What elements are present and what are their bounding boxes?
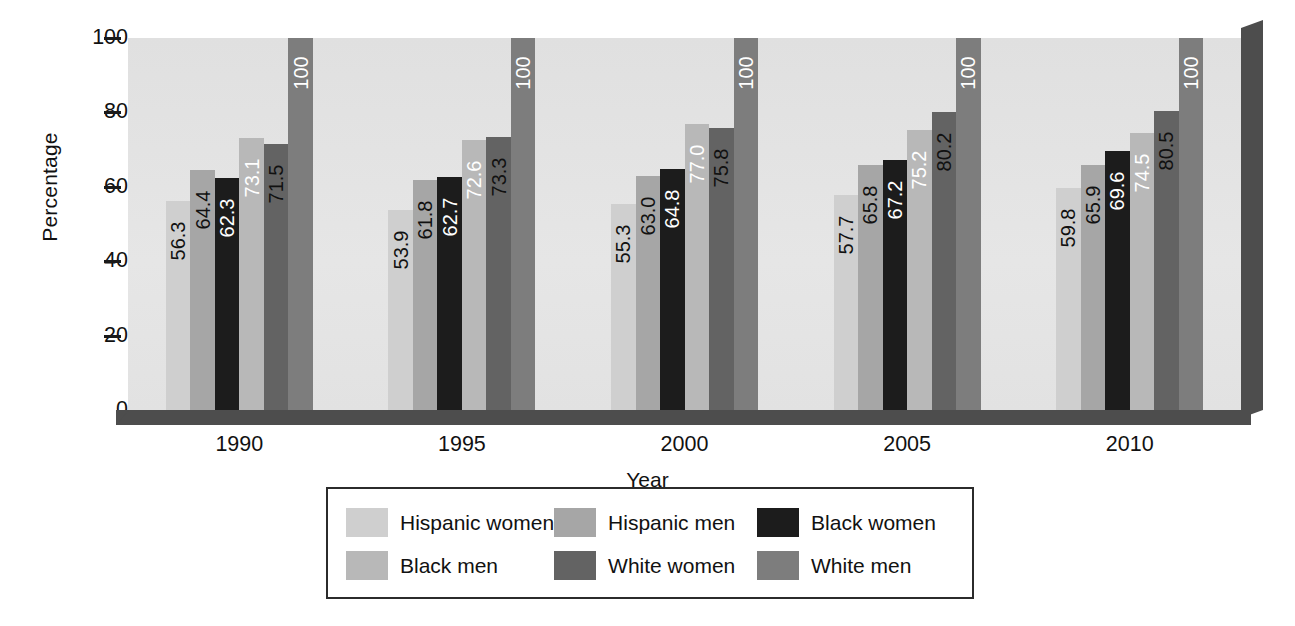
legend-item[interactable]: Black men bbox=[346, 551, 554, 580]
bar-value-label: 61.8 bbox=[415, 201, 435, 240]
bar-value-label: 53.9 bbox=[391, 230, 411, 269]
bar[interactable]: 75.2 bbox=[907, 130, 932, 410]
legend-item[interactable]: Black women bbox=[757, 508, 960, 537]
plot-depth-right-wall bbox=[1241, 20, 1263, 418]
bar[interactable]: 73.3 bbox=[486, 137, 511, 410]
bar[interactable]: 77.0 bbox=[685, 124, 710, 410]
bar-column[interactable]: 72.6 bbox=[462, 38, 487, 410]
bar[interactable]: 63.0 bbox=[636, 176, 661, 410]
bar[interactable]: 64.8 bbox=[660, 169, 685, 410]
legend-item-label: Hispanic women bbox=[400, 511, 554, 535]
bar-column[interactable]: 59.8 bbox=[1056, 38, 1081, 410]
bar[interactable]: 59.8 bbox=[1056, 188, 1081, 410]
bar[interactable]: 100 bbox=[288, 38, 313, 410]
bar-column[interactable]: 73.1 bbox=[239, 38, 264, 410]
bar[interactable]: 69.6 bbox=[1105, 151, 1130, 410]
bar-column[interactable]: 61.8 bbox=[413, 38, 438, 410]
bar-column[interactable]: 100 bbox=[288, 38, 313, 410]
bar-value-label: 100 bbox=[291, 56, 311, 89]
bar[interactable]: 62.3 bbox=[215, 178, 240, 410]
bar-column[interactable]: 62.7 bbox=[437, 38, 462, 410]
y-axis-tick-label: 0 bbox=[33, 399, 128, 421]
bar-group: 55.363.064.877.075.8100 bbox=[611, 38, 758, 410]
bar-column[interactable]: 100 bbox=[734, 38, 759, 410]
bar-column[interactable]: 56.3 bbox=[166, 38, 191, 410]
legend-swatch-icon bbox=[757, 508, 799, 537]
legend-item[interactable]: White women bbox=[554, 551, 757, 580]
bar-column[interactable]: 74.5 bbox=[1130, 38, 1155, 410]
plot-floor bbox=[116, 410, 1251, 425]
bar-column[interactable]: 75.8 bbox=[709, 38, 734, 410]
bar-column[interactable]: 62.3 bbox=[215, 38, 240, 410]
x-axis-tick-label: 2005 bbox=[847, 432, 967, 457]
bar-value-label: 59.8 bbox=[1058, 208, 1078, 247]
bar-value-label: 71.5 bbox=[266, 165, 286, 204]
bar-column[interactable]: 64.4 bbox=[190, 38, 215, 410]
bar[interactable]: 62.7 bbox=[437, 177, 462, 410]
bar[interactable]: 65.9 bbox=[1081, 165, 1106, 410]
bar[interactable]: 100 bbox=[734, 38, 759, 410]
bar-column[interactable]: 53.9 bbox=[388, 38, 413, 410]
bar-value-label: 100 bbox=[513, 56, 533, 89]
bar-column[interactable]: 80.5 bbox=[1154, 38, 1179, 410]
x-axis-tick-label: 2000 bbox=[625, 432, 745, 457]
bar-column[interactable]: 77.0 bbox=[685, 38, 710, 410]
bar[interactable]: 53.9 bbox=[388, 210, 413, 411]
bar[interactable]: 100 bbox=[956, 38, 981, 410]
bar[interactable]: 80.2 bbox=[932, 112, 957, 410]
bar-value-label: 75.8 bbox=[711, 149, 731, 188]
bar[interactable]: 72.6 bbox=[462, 140, 487, 410]
bar[interactable]: 55.3 bbox=[611, 204, 636, 410]
bar-column[interactable]: 67.2 bbox=[883, 38, 908, 410]
legend-swatch-icon bbox=[346, 551, 388, 580]
bar-column[interactable]: 100 bbox=[1179, 38, 1204, 410]
bar-column[interactable]: 65.9 bbox=[1081, 38, 1106, 410]
legend-item-label: White men bbox=[811, 554, 911, 578]
bar-value-label: 100 bbox=[736, 56, 756, 89]
bar[interactable]: 75.8 bbox=[709, 128, 734, 410]
bar[interactable]: 57.7 bbox=[834, 195, 859, 410]
legend-item[interactable]: Hispanic women bbox=[346, 508, 554, 537]
bar[interactable]: 67.2 bbox=[883, 160, 908, 410]
bar-column[interactable]: 55.3 bbox=[611, 38, 636, 410]
bar[interactable]: 73.1 bbox=[239, 138, 264, 410]
bar-column[interactable]: 57.7 bbox=[834, 38, 859, 410]
y-axis-tick-mark bbox=[104, 37, 121, 40]
bar-column[interactable]: 71.5 bbox=[264, 38, 289, 410]
bar[interactable]: 100 bbox=[511, 38, 536, 410]
legend-item[interactable]: Hispanic men bbox=[554, 508, 757, 537]
bar-column[interactable]: 64.8 bbox=[660, 38, 685, 410]
bar-column[interactable]: 80.2 bbox=[932, 38, 957, 410]
bar-group: 53.961.862.772.673.3100 bbox=[388, 38, 535, 410]
bar[interactable]: 80.5 bbox=[1154, 111, 1179, 410]
y-axis-tick-mark bbox=[104, 260, 121, 263]
legend-swatch-icon bbox=[554, 551, 596, 580]
legend-grid: Hispanic womenHispanic menBlack womenBla… bbox=[346, 501, 960, 587]
bar[interactable]: 100 bbox=[1179, 38, 1204, 410]
bar[interactable]: 64.4 bbox=[190, 170, 215, 410]
bar-value-label: 57.7 bbox=[836, 216, 856, 255]
bar-column[interactable]: 100 bbox=[511, 38, 536, 410]
x-axis-tick-label: 1995 bbox=[402, 432, 522, 457]
bar[interactable]: 71.5 bbox=[264, 144, 289, 410]
bar-value-label: 65.8 bbox=[860, 186, 880, 225]
bar[interactable]: 61.8 bbox=[413, 180, 438, 410]
bar[interactable]: 74.5 bbox=[1130, 133, 1155, 410]
bar[interactable]: 56.3 bbox=[166, 201, 191, 410]
bar-value-label: 63.0 bbox=[638, 196, 658, 235]
legend-item[interactable]: White men bbox=[757, 551, 960, 580]
bar-column[interactable]: 65.8 bbox=[858, 38, 883, 410]
bar-column[interactable]: 63.0 bbox=[636, 38, 661, 410]
y-axis-tick-mark bbox=[104, 335, 121, 338]
bar-value-label: 62.3 bbox=[217, 199, 237, 238]
bar-column[interactable]: 69.6 bbox=[1105, 38, 1130, 410]
bar-value-label: 64.4 bbox=[193, 191, 213, 230]
bar-value-label: 64.8 bbox=[662, 189, 682, 228]
bar-column[interactable]: 73.3 bbox=[486, 38, 511, 410]
bar-group: 59.865.969.674.580.5100 bbox=[1056, 38, 1203, 410]
bar-column[interactable]: 100 bbox=[956, 38, 981, 410]
plot-container: 56.364.462.373.171.510053.961.862.772.67… bbox=[128, 28, 1263, 428]
bar-column[interactable]: 75.2 bbox=[907, 38, 932, 410]
x-axis-tick-label: 1990 bbox=[179, 432, 299, 457]
bar[interactable]: 65.8 bbox=[858, 165, 883, 410]
